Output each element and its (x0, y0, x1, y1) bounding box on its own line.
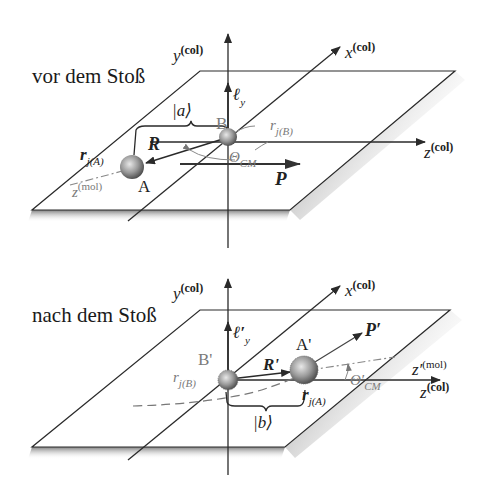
panel-title: nach dem Stoß (32, 303, 157, 327)
atom-a-label: A' (296, 335, 311, 354)
collision-diagram: vor dem Stoß y(col) x(col) z(col) ℓy |a⟩… (0, 0, 495, 492)
y-axis-label: y(col) (171, 43, 203, 65)
y-axis-base: y (171, 284, 181, 303)
mol-axis-sup: (mol) (78, 180, 103, 193)
z-axis-label: z(col) (423, 140, 453, 162)
y-axis-label: y(col) (171, 281, 203, 303)
atom-a-label: A (138, 177, 151, 196)
y-axis-sup: (col) (181, 281, 204, 295)
diagram-canvas: vor dem Stoß y(col) x(col) z(col) ℓy |a⟩… (0, 0, 495, 492)
panel-after: nach dem Stoß y(col) x(col) z(col) ℓ′y |… (28, 278, 462, 475)
panel-title: vor dem Stoß (32, 64, 145, 88)
atom-b-label: B' (198, 350, 212, 369)
angular-momentum-base: ℓ (233, 85, 240, 104)
angular-momentum-sub: y (239, 96, 245, 108)
angle-sub: CM (240, 157, 257, 169)
electron-a-sub: j(A) (85, 155, 104, 168)
y-axis-sup: (col) (181, 43, 204, 57)
atom-b (218, 370, 238, 390)
plane-shadow (28, 447, 285, 459)
z-axis-sup: (col) (431, 140, 454, 154)
atom-b-label: B (216, 114, 227, 133)
plane-shadow (28, 210, 290, 222)
z-axis-sup: (col) (427, 380, 450, 394)
angular-momentum-base: ℓ′ (233, 323, 245, 342)
mol-axis-base: z′ (411, 360, 423, 379)
y-axis-base: y (171, 46, 181, 65)
x-axis-sup: (col) (353, 40, 376, 54)
separation-label: R (147, 134, 160, 154)
x-axis-label: x(col) (344, 278, 375, 300)
angle-sub: CM (364, 380, 381, 392)
mol-axis-sup: (mol) (422, 358, 447, 371)
angle-base: Θ (229, 149, 240, 165)
mol-axis-label: z′(mol) (411, 358, 447, 379)
panel-before: vor dem Stoß y(col) x(col) z(col) ℓy |a⟩… (28, 34, 465, 248)
x-axis-sup: (col) (353, 278, 376, 292)
z-axis-label: z(col) (419, 380, 449, 402)
momentum-label: P (274, 168, 287, 189)
atom-a (120, 155, 144, 179)
electron-a-label: rj(A) (80, 145, 104, 168)
momentum-label: P′ (364, 320, 381, 340)
state-label: |b⟩ (253, 413, 273, 432)
electron-b-sub: j(B) (274, 125, 293, 138)
electron-b-sub: j(B) (177, 377, 196, 390)
electron-a-sub: j(A) (307, 395, 326, 408)
state-label: |a⟩ (172, 101, 192, 120)
angular-momentum-sub: y (244, 334, 250, 346)
angle-base: Θ′ (350, 372, 365, 388)
atom-a (290, 356, 318, 384)
x-axis-label: x(col) (344, 40, 375, 62)
separation-label: R' (262, 355, 279, 374)
